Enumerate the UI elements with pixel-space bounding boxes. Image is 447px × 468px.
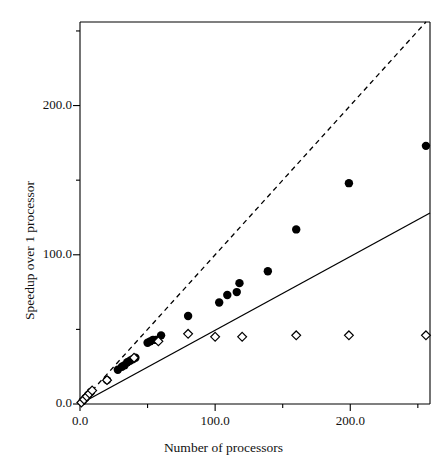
data-point-open-diamond xyxy=(238,332,247,341)
data-point-filled-circle xyxy=(292,225,300,233)
data-point-filled-circle xyxy=(345,179,353,187)
data-point-filled-circle xyxy=(184,312,192,320)
data-markers xyxy=(77,142,430,407)
y-tick-label: 0.0 xyxy=(26,395,72,411)
x-tick-label: 0.0 xyxy=(60,413,100,429)
data-point-open-diamond xyxy=(292,331,301,340)
y-axis-title: Speedup over 1 processor xyxy=(22,181,38,320)
x-axis-title: Number of processors xyxy=(0,440,447,456)
data-point-open-diamond xyxy=(345,331,354,340)
data-point-filled-circle xyxy=(422,142,430,150)
data-point-filled-circle xyxy=(235,279,243,287)
data-point-open-diamond xyxy=(422,331,431,340)
data-point-filled-circle xyxy=(233,288,241,296)
x-tick-label: 100.0 xyxy=(195,413,235,429)
half-linear-reference xyxy=(80,213,430,404)
plot-frame xyxy=(80,22,430,404)
data-point-open-diamond xyxy=(211,332,220,341)
reference-lines xyxy=(80,22,430,404)
chart-figure: 0.0100.0200.00.0100.0200.0 Number of pro… xyxy=(0,0,447,468)
linear-speedup-reference xyxy=(80,22,426,404)
data-point-filled-circle xyxy=(264,267,272,275)
x-tick-label: 200.0 xyxy=(330,413,370,429)
data-point-open-diamond xyxy=(184,329,193,338)
data-point-filled-circle xyxy=(223,291,231,299)
y-tick-label: 200.0 xyxy=(26,97,72,113)
data-point-filled-circle xyxy=(215,298,223,306)
